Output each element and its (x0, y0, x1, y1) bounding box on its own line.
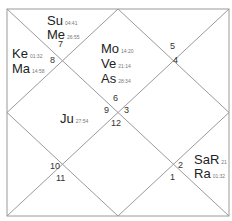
house-number-3: 3 (124, 106, 129, 115)
planet-degree: 26:55 (67, 34, 80, 40)
planet-degree: 04:41 (65, 20, 78, 26)
house-number-7: 7 (58, 40, 63, 49)
planet-jupiter: Ju27:54 (60, 112, 88, 125)
house-number-8: 8 (50, 56, 55, 65)
planet-venus: Ve21:14 (101, 57, 131, 70)
planet-name: Ve (101, 56, 116, 71)
planet-mercury: Me26:55 (47, 28, 80, 41)
house-number-11: 11 (56, 174, 65, 183)
planet-degree: 01:32 (213, 173, 226, 179)
planet-mars: Ma14:58 (12, 62, 45, 75)
planet-rahu: Ra01:32 (194, 167, 225, 180)
house-number-9: 9 (104, 106, 109, 115)
house-number-12: 12 (111, 119, 121, 128)
house-number-10: 10 (50, 162, 60, 171)
planet-saturn-retro: SaR21 (194, 153, 227, 166)
planet-degree: 14:20 (121, 48, 134, 54)
planet-name: Su (47, 13, 63, 28)
house-number-6: 6 (113, 94, 118, 103)
house-number-2: 2 (178, 161, 183, 170)
house-number-1: 1 (170, 173, 175, 182)
house-number-4: 4 (173, 56, 178, 65)
planet-degree: 01:32 (30, 53, 43, 59)
planet-name: Ju (60, 111, 74, 126)
house-number-5: 5 (170, 42, 175, 51)
planet-name: Ma (12, 61, 30, 76)
planet-name: Ra (194, 166, 211, 181)
planet-sun: Su04:41 (47, 14, 77, 27)
planet-name: Mo (101, 41, 119, 56)
planet-moon: Mo14:20 (101, 42, 134, 55)
planet-degree: 14:58 (32, 68, 45, 74)
planet-degree: 21 (221, 159, 227, 165)
planet-degree: 27:54 (76, 118, 89, 124)
chart-frame (0, 0, 232, 221)
planet-ascendant: As28:34 (101, 72, 131, 85)
planet-name: Ke (12, 46, 28, 61)
planet-degree: 28:34 (118, 78, 131, 84)
planet-ketu: Ke01:32 (12, 47, 42, 60)
planet-degree: 21:14 (118, 63, 131, 69)
planet-name: As (101, 71, 116, 86)
planet-name: SaR (194, 152, 219, 167)
